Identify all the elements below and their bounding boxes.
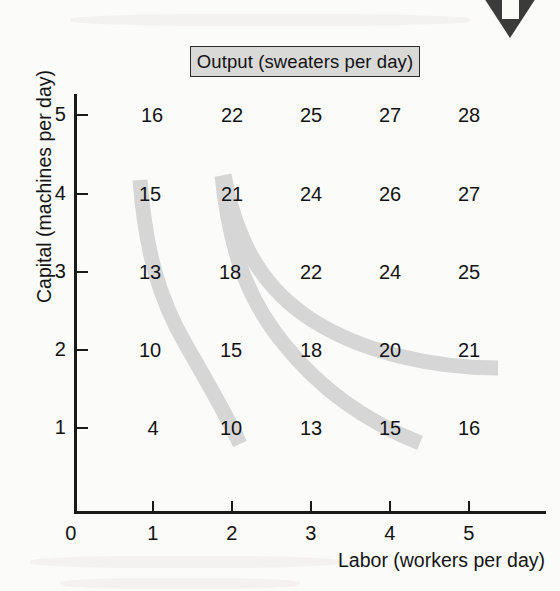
data-label: 15 [211, 340, 251, 360]
y-tick-4 [77, 193, 88, 195]
x-axis-title: Labor (workers per day) [300, 549, 545, 572]
data-label: 4 [133, 418, 173, 438]
x-tick-label-0: 0 [56, 522, 86, 545]
data-label: 10 [211, 418, 251, 438]
data-label: 28 [449, 105, 489, 125]
y-axis-line [74, 94, 77, 514]
x-tick-label-3: 3 [296, 522, 326, 545]
data-label: 22 [212, 105, 252, 125]
data-label: 16 [132, 105, 172, 125]
data-label: 26 [370, 184, 410, 204]
data-label: 25 [291, 105, 331, 125]
y-tick-3 [77, 271, 88, 273]
isoquant-curve-15 [222, 176, 420, 443]
data-label: 24 [291, 184, 331, 204]
data-label: 27 [449, 184, 489, 204]
data-label: 15 [130, 184, 170, 204]
data-label: 27 [370, 105, 410, 125]
y-tick-label-1: 1 [38, 416, 66, 439]
x-tick-label-4: 4 [375, 522, 405, 545]
chart-title-text: Output (sweaters per day) [197, 51, 413, 73]
x-tick-3 [310, 501, 312, 512]
y-tick-5 [77, 114, 88, 116]
data-label: 22 [291, 262, 331, 282]
data-label: 13 [130, 262, 170, 282]
x-tick-label-1: 1 [138, 522, 168, 545]
y-axis-title: Capital (machines per day) [33, 47, 56, 327]
x-tick-5 [468, 501, 470, 512]
isoquant-figure: 5 4 3 2 1 0 1 2 3 4 5 Capital (machines … [0, 0, 560, 591]
data-label: 21 [212, 184, 252, 204]
data-label: 15 [370, 418, 410, 438]
chart-title-box: Output (sweaters per day) [190, 46, 420, 77]
data-label: 13 [291, 418, 331, 438]
y-tick-2 [77, 349, 88, 351]
x-tick-label-2: 2 [217, 522, 247, 545]
x-tick-1 [152, 501, 154, 512]
data-label: 21 [449, 340, 489, 360]
x-tick-label-5: 5 [454, 522, 484, 545]
data-label: 18 [291, 340, 331, 360]
y-tick-label-2: 2 [38, 338, 66, 361]
data-label: 24 [370, 262, 410, 282]
x-tick-2 [231, 501, 233, 512]
x-tick-4 [389, 501, 391, 512]
data-label: 16 [449, 418, 489, 438]
y-tick-1 [77, 427, 88, 429]
isoquant-curves [0, 0, 560, 591]
data-label: 10 [130, 340, 170, 360]
data-label: 25 [449, 262, 489, 282]
data-label: 18 [210, 262, 250, 282]
data-label: 20 [370, 340, 410, 360]
